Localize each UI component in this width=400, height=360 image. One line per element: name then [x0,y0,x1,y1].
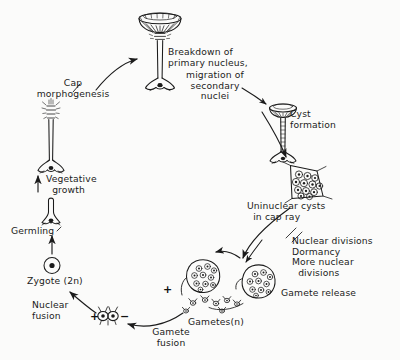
organism-zygote [44,258,60,274]
arrow-cyst-to-gametangium [243,208,290,258]
sign-plus-gametes: + [163,283,172,296]
sign-minus-fusing-pair: − [120,310,129,323]
arrow-cyst-to-cyst [216,251,240,258]
organism-fusing-gamete-pair [98,307,118,325]
organism-mature-alga-with-cap [139,13,181,91]
life-cycle-diagram [0,0,400,360]
arrow-cap-morphogenesis [96,59,137,90]
organism-gamete-filled-cyst [236,265,275,298]
organism-cap-ray-releasing [270,104,297,164]
organism-vegetative-stalk [38,99,64,174]
organism-releasing-cyst [181,260,219,295]
arrow-nuclear-breakdown [242,88,266,104]
arrow-gamete-release [246,240,262,262]
free-gametes [182,296,243,313]
sign-plus-fusing-pair: + [90,310,99,323]
arrow-gamete-fusion [128,313,183,326]
organism-germling [42,198,60,225]
organism-uninuclear-cyst-cluster [283,162,332,203]
